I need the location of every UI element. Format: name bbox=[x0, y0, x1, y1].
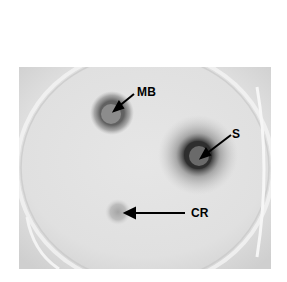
label-s: S bbox=[232, 128, 240, 140]
petri-dish-photo: MB S CR bbox=[19, 67, 271, 269]
label-mb: MB bbox=[137, 86, 156, 98]
label-cr: CR bbox=[191, 207, 209, 219]
